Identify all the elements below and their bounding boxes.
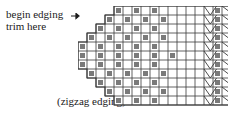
marked-cell <box>98 44 103 49</box>
marked-cell <box>98 26 103 31</box>
marked-cell <box>215 53 220 58</box>
marked-cell <box>152 44 157 49</box>
marked-cell <box>134 26 139 31</box>
marked-cell <box>125 17 130 22</box>
marked-cell <box>80 62 85 67</box>
begin-edging-label: begin edging <box>6 9 63 21</box>
trim-here-label: trim here <box>6 21 46 33</box>
marked-cell <box>134 44 139 49</box>
marked-cell <box>152 53 157 58</box>
marked-cell <box>161 71 166 76</box>
marked-cell <box>107 17 112 22</box>
marked-cell <box>116 44 121 49</box>
marked-cell <box>116 26 121 31</box>
marked-cell <box>143 89 148 94</box>
marked-cell <box>116 80 121 85</box>
marked-cell <box>215 71 220 76</box>
marked-cell <box>98 62 103 67</box>
marked-cell <box>89 71 94 76</box>
marked-cell <box>161 35 166 40</box>
marked-cell <box>80 44 85 49</box>
marked-cell <box>152 26 157 31</box>
diagram-canvas: begin edging trim here row 11 row 1 (zig… <box>0 0 237 118</box>
marked-cell <box>143 35 148 40</box>
marked-cell <box>215 80 220 85</box>
zigzag-edging-chart <box>78 6 228 110</box>
marked-cell <box>215 44 220 49</box>
marked-cell <box>107 35 112 40</box>
marked-cell <box>116 62 121 67</box>
marked-cell <box>134 53 139 58</box>
marked-cell <box>215 35 220 40</box>
marked-cell <box>116 53 121 58</box>
marked-cell <box>215 98 220 103</box>
marked-cell <box>152 80 157 85</box>
marked-cell <box>98 53 103 58</box>
chart-row-bg <box>96 24 228 33</box>
marked-cell <box>143 17 148 22</box>
chart-row-bg <box>96 78 228 87</box>
marked-cell <box>215 62 220 67</box>
marked-cell <box>116 8 121 13</box>
marked-cell <box>161 17 166 22</box>
marked-cell <box>116 98 121 103</box>
marked-cell <box>134 80 139 85</box>
marked-cell <box>152 62 157 67</box>
marked-cell <box>89 35 94 40</box>
marked-cell <box>125 35 130 40</box>
marked-cell <box>215 26 220 31</box>
marked-cell <box>215 17 220 22</box>
marked-cell <box>125 89 130 94</box>
marked-cell <box>125 71 130 76</box>
marked-cell <box>134 62 139 67</box>
marked-cell <box>161 89 166 94</box>
marked-cell <box>152 98 157 103</box>
marked-cell <box>107 89 112 94</box>
marked-cell <box>152 8 157 13</box>
marked-cell <box>215 8 220 13</box>
marked-cell <box>107 71 112 76</box>
marked-cell <box>170 53 175 58</box>
chart-svg <box>78 6 228 110</box>
marked-cell <box>98 80 103 85</box>
marked-cell <box>134 98 139 103</box>
marked-cell <box>143 71 148 76</box>
marked-cell <box>215 89 220 94</box>
marked-cell <box>80 53 85 58</box>
marked-cell <box>134 8 139 13</box>
